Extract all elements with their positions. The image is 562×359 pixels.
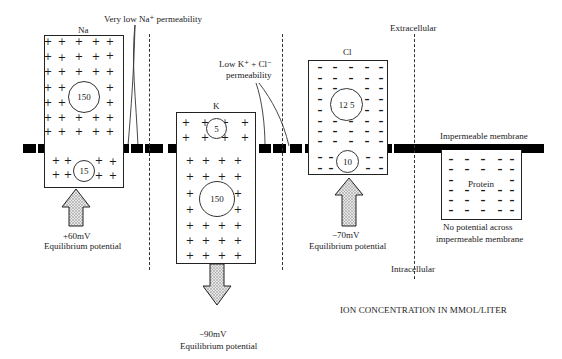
extracellular-label: Extracellular [390, 23, 436, 33]
k-outside-concentration: 5 [206, 118, 227, 139]
divider-k-cl [282, 34, 283, 270]
na-outside-concentration: 150 [68, 81, 100, 113]
na-potential-value: +60mV [63, 231, 91, 241]
divider-extra-intra [414, 34, 415, 279]
k-potential-label: Equilibrium potential [180, 341, 257, 351]
cl-outside-concentration: 12 5 [330, 88, 363, 121]
k-arrow-down-icon [203, 264, 231, 305]
k-cl-leader-lines [256, 83, 289, 146]
protein-note-line1: No potential across [443, 222, 512, 232]
k-inside-concentration: 150 [199, 181, 235, 217]
divider-na-k [149, 34, 150, 270]
k-potential-value: −90mV [199, 329, 227, 339]
protein-label: Protein [467, 179, 495, 189]
na-ion-label: Na [78, 25, 89, 35]
intracellular-label: Intracellular [391, 264, 435, 274]
impermeable-membrane-label: Impermeable membrane [440, 131, 528, 141]
very-low-na-permeability-label: Very low Na⁺ permeability [104, 14, 202, 24]
low-k-cl-permeability-label-1: Low K⁺ + Cl⁻ [219, 59, 272, 69]
cl-potential-value: −70mV [332, 230, 360, 240]
na-inside-concentration: 15 [73, 160, 95, 182]
na-leader-lines [128, 25, 138, 146]
low-k-cl-permeability-label-2: permeability [226, 70, 271, 80]
cl-potential-label: Equilibrium potential [309, 241, 386, 251]
na-arrow-up-icon [62, 189, 90, 226]
cl-inside-concentration: 10 [336, 150, 359, 173]
k-ion-label: K [213, 101, 220, 111]
cl-arrow-up-icon [335, 178, 363, 226]
footer-title: ION CONCENTRATION IN MMOL/LITER [340, 305, 507, 315]
cl-ion-label: Cl [343, 47, 352, 57]
protein-note-line2: impermeable membrane [436, 234, 523, 244]
na-potential-label: Equilibrium potential [44, 241, 121, 251]
